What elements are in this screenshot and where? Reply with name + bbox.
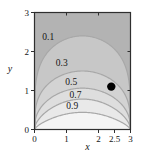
x-tick-label-2.5: 2.5 [109,134,121,144]
contour-plot: 0.10.30.50.70.90122.530123xy [0,0,152,163]
contour-label-0.3: 0.3 [56,58,68,68]
contour-label-0.5: 0.5 [65,77,77,87]
x-tick-label-0: 0 [32,134,37,144]
y-tick-label-2: 2 [25,47,30,57]
y-axis-label: y [7,63,13,74]
contour-plot-figure: 0.10.30.50.70.90122.530123xy [0,0,152,163]
y-tick-label-3: 3 [25,8,30,18]
y-tick-label-0: 0 [25,125,30,135]
data-point-marker [107,82,115,90]
contour-label-0.7: 0.7 [70,90,82,100]
x-tick-label-2: 2 [96,134,101,144]
x-axis-label: x [84,141,90,152]
y-tick-label-1: 1 [25,86,30,96]
contour-label-0.1: 0.1 [42,32,54,42]
contour-label-0.9: 0.9 [66,101,78,111]
x-tick-label-1: 1 [64,134,69,144]
x-tick-label-3: 3 [128,134,133,144]
